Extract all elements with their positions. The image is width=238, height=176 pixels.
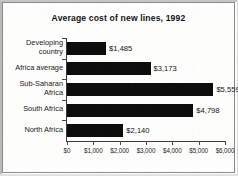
category-label: South Africa (23, 105, 63, 114)
bar-value-label: $2,140 (126, 126, 149, 135)
y-axis-tick (62, 59, 66, 60)
bar (67, 42, 106, 55)
bar (67, 104, 193, 117)
y-axis-tick (62, 100, 66, 101)
x-axis-tick-label: $3,000 (137, 147, 156, 154)
category-label: Sub-SaharanAfrica (19, 80, 63, 97)
category-label-line: Africa (19, 89, 63, 98)
x-axis-tick-label: $5,000 (189, 147, 208, 154)
category-label-line: Africa average (15, 64, 63, 73)
x-axis-tick-label: $0 (64, 147, 71, 154)
y-axis-tick (62, 38, 66, 39)
x-axis-tick (93, 141, 94, 145)
x-axis-tick-label: $1,000 (84, 147, 103, 154)
category-label: Developingcountry (26, 39, 63, 56)
chart-figure: Average cost of new lines, 1992 $1,485$3… (0, 0, 238, 176)
x-axis-tick-label: $6,000 (216, 147, 235, 154)
plot-area: $1,485$3,173$5,559$4,798$2,140 Developin… (0, 0, 238, 176)
bar-value-label: $5,559 (216, 85, 238, 94)
x-axis-tick-label: $2,000 (110, 147, 129, 154)
x-axis-tick (146, 141, 147, 145)
bar (67, 124, 123, 137)
category-label-line: country (26, 48, 63, 57)
bar-value-label: $3,173 (154, 64, 177, 73)
category-label-line: South Africa (23, 105, 63, 114)
x-axis-tick (120, 141, 121, 145)
bar (67, 83, 213, 96)
bar-value-label: $4,798 (196, 106, 219, 115)
x-axis-tick (199, 141, 200, 145)
x-axis-tick-label: $4,000 (163, 147, 182, 154)
category-label: Africa average (15, 64, 63, 73)
category-label-line: North Africa (24, 126, 63, 135)
category-label: North Africa (24, 126, 63, 135)
x-axis-tick (225, 141, 226, 145)
y-axis-tick (62, 120, 66, 121)
y-axis-tick (62, 79, 66, 80)
x-axis-tick (67, 141, 68, 145)
bar-value-label: $1,485 (109, 44, 132, 53)
x-axis-tick (172, 141, 173, 145)
bar (67, 62, 151, 75)
